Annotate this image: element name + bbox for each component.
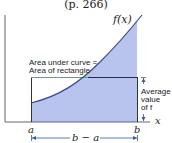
b-label: b bbox=[134, 124, 140, 135]
annotation-line-2: Area of rectangle bbox=[29, 66, 90, 75]
a-label: a bbox=[28, 124, 34, 135]
x-axis-label: x bbox=[155, 115, 161, 126]
width-arrow-left-icon bbox=[32, 136, 36, 140]
average-label-line-3: of f bbox=[141, 103, 153, 112]
width-arrow-right-icon bbox=[133, 136, 137, 140]
average-value-figure: (p. 266) f(x) Area under curve = Area of… bbox=[0, 0, 172, 143]
width-label: b − a bbox=[72, 132, 99, 143]
curve-label: f(x) bbox=[112, 13, 132, 26]
